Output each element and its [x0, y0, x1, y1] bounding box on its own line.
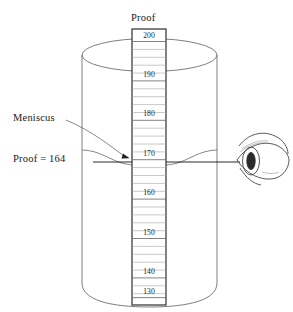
scale-number-150: 150 — [132, 229, 166, 237]
meniscus-label: Meniscus — [13, 112, 55, 123]
scale-number-170: 170 — [132, 150, 166, 158]
scale-number-140: 140 — [132, 268, 166, 276]
eye — [237, 133, 289, 185]
eye-pupil — [247, 152, 255, 169]
scale-number-180: 180 — [132, 110, 166, 118]
scale-number-190: 190 — [132, 71, 166, 79]
scale-number-130: 130 — [132, 288, 166, 296]
eye-corner-crease — [240, 168, 261, 185]
scale-title: Proof — [131, 12, 155, 23]
proof-reading-label: Proof = 164 — [13, 153, 65, 164]
meniscus-arrowhead-icon — [122, 154, 130, 159]
meniscus-leader-line — [66, 120, 124, 156]
scale-number-160: 160 — [132, 189, 166, 197]
eye-lower-lid — [237, 160, 289, 179]
scale-number-200: 200 — [132, 32, 166, 40]
